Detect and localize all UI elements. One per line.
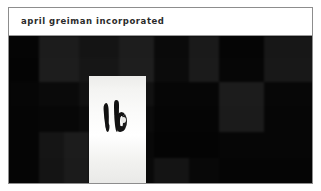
glyph-notch [121,117,126,123]
figure-glyphs [89,76,146,184]
checker-tile [219,158,312,184]
checker-tile [154,82,219,106]
checker-tile [264,36,312,58]
checker-tile [219,106,264,132]
glyph-tail [117,126,125,132]
checker-tile [264,58,312,82]
checker-tile [154,132,219,158]
checker-tile [79,36,119,58]
poster-page: april greiman incorporated [0,0,321,191]
checker-tile [9,58,39,82]
checker-tile [9,36,39,58]
checker-tile [189,158,219,184]
checker-tile [39,82,79,106]
checkerboard-layer [9,36,312,184]
checker-tile [154,158,189,184]
checker-tile [154,106,219,132]
checker-tile [264,106,312,132]
title-bar: april greiman incorporated [9,8,312,36]
checker-tile [39,36,79,58]
checker-tile [264,82,312,106]
checker-tile [64,132,89,158]
checker-tile [9,132,39,158]
glyph-stroke-right [114,100,127,132]
checker-tile [39,132,64,158]
checker-tile [64,158,89,184]
checker-tile [219,82,264,106]
checker-tile [119,36,154,58]
checker-tile [9,158,39,184]
checker-tile [9,82,39,106]
checker-tile [39,58,79,82]
checker-tile [219,132,312,158]
checker-tile [189,36,219,58]
artwork-canvas [9,36,312,184]
checker-tile [219,58,264,82]
checker-tile [219,36,264,58]
checker-tile [39,158,64,184]
checker-tile [154,36,189,58]
page-title: april greiman incorporated [9,17,164,26]
glyph-stroke-left [103,103,109,131]
artwork-frame: april greiman incorporated [8,7,313,184]
checker-tile [39,106,79,132]
checker-tile [154,58,189,82]
checker-tile [9,106,39,132]
checker-tile [189,58,219,82]
